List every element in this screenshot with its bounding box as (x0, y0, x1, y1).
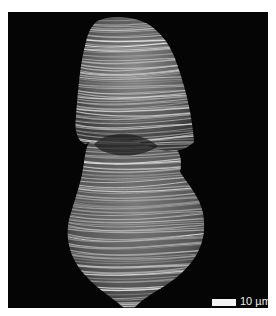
scale-bar-label: 10 µm (240, 295, 268, 308)
specimen-image (8, 12, 268, 308)
scale-bar (212, 299, 236, 306)
filament-strand (68, 16, 198, 21)
micrograph-panel: 10 µm (8, 12, 268, 308)
